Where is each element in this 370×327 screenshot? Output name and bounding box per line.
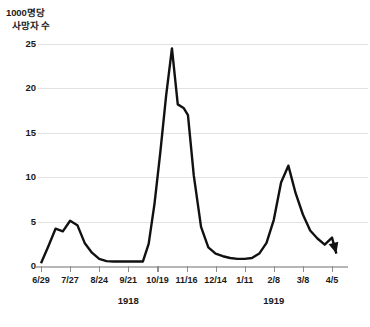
mortality-line-series [0, 0, 370, 327]
series-polyline [41, 48, 336, 263]
chart-container: 1000명당 사망자 수 0510152025 6/297/278/249/21… [0, 0, 370, 327]
